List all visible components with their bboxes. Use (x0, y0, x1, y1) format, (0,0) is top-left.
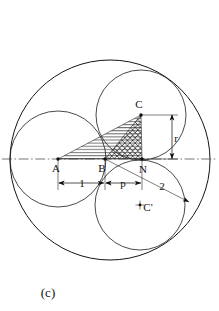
label-C-prime: C' (143, 201, 152, 213)
label-length-1: 1 (79, 177, 85, 189)
dimension-r (141, 115, 178, 159)
label-B: B (98, 162, 105, 174)
label-length-p: p (120, 177, 126, 189)
figure-caption: (c) (41, 285, 55, 300)
radius-line-2 (105, 159, 189, 202)
circles-group (10, 60, 210, 260)
label-radius-r: r (174, 132, 178, 144)
label-N: N (139, 163, 147, 175)
label-C: C (135, 98, 142, 110)
label-length-2: 2 (159, 180, 165, 192)
point-marker-C (139, 113, 142, 116)
label-A: A (52, 162, 60, 174)
point-marker-N (140, 157, 143, 160)
point-marker-B (103, 157, 106, 160)
outer-circle (10, 60, 210, 260)
figure-container: A B N C C' 1 p r 2 (c) (0, 0, 219, 311)
point-marker-A (56, 157, 59, 160)
geometry-figure: A B N C C' 1 p r 2 (c) (0, 0, 219, 311)
